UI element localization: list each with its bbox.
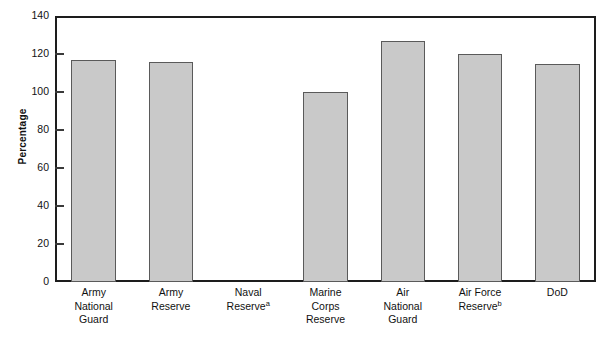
- x-axis-category-label: MarineCorpsReserve: [287, 286, 364, 327]
- x-axis-category-label: ArmyReserve: [132, 286, 209, 313]
- bar-chart: Percentage 140120100806040200 ArmyNation…: [0, 0, 597, 339]
- y-axis-tick-label: 120: [0, 48, 49, 59]
- x-axis-category-label: AirNationalGuard: [364, 286, 441, 327]
- y-axis-tick-label: 20: [0, 238, 49, 249]
- bars-layer: [55, 16, 596, 282]
- bar: [303, 92, 347, 282]
- footnote-marker: a: [266, 298, 270, 307]
- footnote-marker: b: [498, 298, 502, 307]
- x-axis-category-label: NavalReservea: [210, 286, 287, 313]
- x-axis-labels: ArmyNationalGuardArmyReserveNavalReserve…: [55, 286, 596, 336]
- x-axis-category-label: DoD: [519, 286, 596, 300]
- y-axis-tick-label: 40: [0, 200, 49, 211]
- y-axis-tick-label: 140: [0, 10, 49, 21]
- bar: [535, 64, 579, 283]
- y-axis-tick-label: 80: [0, 124, 49, 135]
- y-axis-tick-label: 60: [0, 162, 49, 173]
- bar: [458, 54, 502, 282]
- x-axis-category-label: Air ForceReserveb: [441, 286, 518, 313]
- y-axis-tick-label: 0: [0, 276, 49, 287]
- bar: [149, 62, 193, 282]
- bar: [381, 41, 425, 282]
- x-axis-category-label: ArmyNationalGuard: [55, 286, 132, 327]
- y-axis-tick-label: 100: [0, 86, 49, 97]
- bar: [71, 60, 115, 282]
